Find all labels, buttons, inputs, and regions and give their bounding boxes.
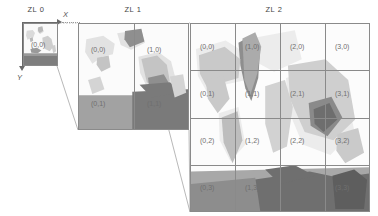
panel-title-zl0: ZL 0 bbox=[16, 5, 56, 14]
tile-cell-zl1-0-0 bbox=[79, 24, 135, 78]
tile-cell-zl1-1-0 bbox=[135, 24, 190, 78]
tile-grid-zl2: (0,0) (1,0) (2,0) (3,0) (0,1) (1,1) (2,1… bbox=[190, 23, 370, 212]
x-axis-label: X bbox=[63, 10, 68, 19]
tile-cell-zl2-1-0 bbox=[236, 24, 281, 71]
panel-title-zl1: ZL 1 bbox=[113, 5, 153, 14]
tile-cell-zl2-2-0 bbox=[281, 24, 326, 71]
tile-grid-zl1: (0,0) (1,0) (0,1) (1,1) bbox=[78, 23, 189, 130]
tile-grid-zl0: (0,0) bbox=[23, 23, 58, 66]
tile-pyramid-figure: X Y ZL 0 ZL 1 ZL 2 bbox=[0, 0, 378, 216]
tile-cell-zl2-3-3 bbox=[326, 166, 370, 212]
tile-cell-zl2-3-2 bbox=[326, 119, 370, 166]
tile-cell-zl2-3-0 bbox=[326, 24, 370, 71]
tile-cell-zl2-3-1 bbox=[326, 71, 370, 118]
tile-cell-zl2-1-2 bbox=[236, 119, 281, 166]
world-map-zl0 bbox=[24, 24, 57, 65]
tile-cell-zl2-2-1 bbox=[281, 71, 326, 118]
tile-cell-zl2-2-2 bbox=[281, 119, 326, 166]
tile-cell-zl2-0-3 bbox=[191, 166, 236, 212]
tile-cell-zl1-0-1 bbox=[79, 78, 135, 131]
tile-cell-zl2-2-3 bbox=[281, 166, 326, 212]
tile-cell-zl2-0-1 bbox=[191, 71, 236, 118]
tile-cell-zl2-1-1 bbox=[236, 71, 281, 118]
tile-cell-zl2-0-2 bbox=[191, 119, 236, 166]
y-axis-label: Y bbox=[17, 73, 22, 82]
tile-cell-zl2-1-3 bbox=[236, 166, 281, 212]
y-axis-arrow-icon bbox=[19, 66, 25, 71]
panel-title-zl2: ZL 2 bbox=[254, 5, 294, 14]
tile-cell-zl1-1-1 bbox=[135, 78, 190, 131]
tile-cell-zl2-0-0 bbox=[191, 24, 236, 71]
